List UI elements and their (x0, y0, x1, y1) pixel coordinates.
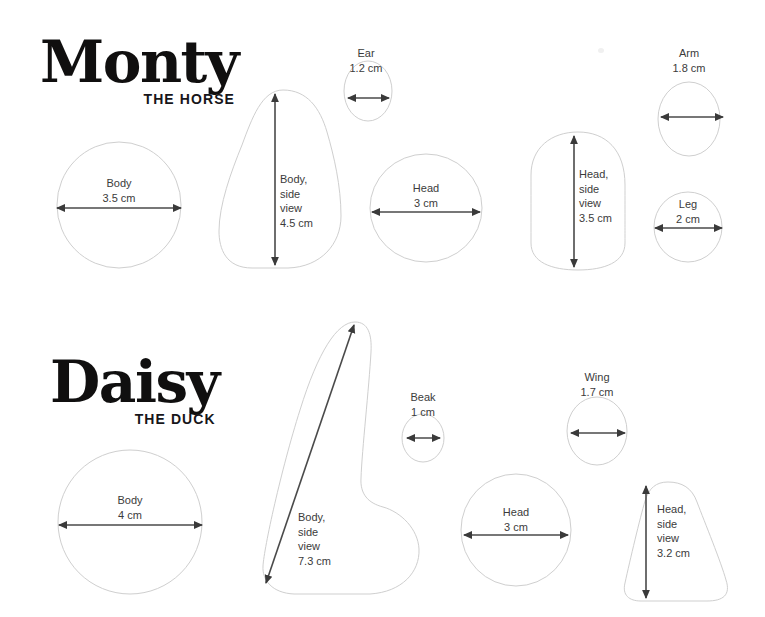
shape-daisy-body (58, 450, 202, 594)
label-monty-leg: Leg 2 cm (676, 197, 700, 226)
title-block-monty: Monty THE HORSE (40, 36, 238, 107)
title-monty-name: Monty (40, 36, 238, 89)
label-daisy-body-side: Body, side view 7.3 cm (298, 510, 331, 568)
scan-artifact-dot (598, 48, 604, 53)
title-daisy-name: Daisy (50, 356, 219, 409)
shape-monty-leg (654, 192, 722, 262)
shape-monty-ear (344, 61, 392, 121)
label-daisy-head: Head 3 cm (503, 505, 529, 534)
label-monty-arm: Arm 1.8 cm (672, 46, 705, 75)
shape-daisy-head-side (624, 482, 727, 601)
shape-monty-head-side (531, 132, 625, 270)
label-daisy-head-side: Head, side view 3.2 cm (657, 502, 690, 560)
label-monty-body: Body 3.5 cm (102, 176, 135, 205)
title-block-daisy: Daisy THE DUCK (50, 356, 219, 427)
label-monty-ear: Ear 1.2 cm (349, 46, 382, 75)
shape-daisy-wing (567, 397, 627, 465)
label-monty-head: Head 3 cm (413, 181, 439, 210)
label-daisy-wing: Wing 1.7 cm (580, 370, 613, 399)
shape-daisy-beak (402, 414, 444, 462)
shape-monty-body (57, 142, 181, 268)
label-daisy-body: Body 4 cm (117, 493, 142, 522)
shape-monty-body-side (219, 90, 341, 268)
shape-daisy-head (461, 474, 571, 586)
label-daisy-beak: Beak 1 cm (410, 390, 435, 419)
shape-monty-arm (658, 82, 723, 156)
shape-daisy-body-side (263, 322, 419, 594)
label-monty-head-side: Head, side view 3.5 cm (579, 167, 612, 225)
shape-monty-head (370, 154, 482, 262)
label-monty-body-side: Body, side view 4.5 cm (280, 172, 313, 230)
pattern-sheet: Monty THE HORSE Daisy THE DUCK Body 3.5 … (0, 0, 765, 617)
